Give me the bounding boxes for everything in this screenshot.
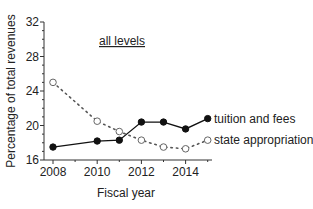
x-ticks: 2008201020122014 <box>40 160 208 179</box>
data-point <box>50 79 57 86</box>
x-tick-label: 2010 <box>84 165 111 179</box>
data-point <box>94 138 100 144</box>
data-point <box>116 128 123 135</box>
series-label-tuition: tuition and fees <box>214 112 295 126</box>
x-tick-label: 2008 <box>40 165 67 179</box>
x-tick-label: 2012 <box>128 165 155 179</box>
data-point <box>116 137 122 143</box>
series-layer <box>50 79 211 152</box>
data-point <box>50 144 56 150</box>
y-ticks: 1620242832 <box>26 15 44 167</box>
line-chart: 1620242832 2008201020122014 Percentage o… <box>0 0 313 209</box>
series-line-0 <box>53 119 208 147</box>
data-point <box>138 119 144 125</box>
data-point <box>182 145 189 152</box>
data-point <box>94 118 101 125</box>
y-tick-label: 20 <box>26 119 40 133</box>
data-point <box>204 137 211 144</box>
series-line-1 <box>53 82 208 148</box>
data-point <box>160 119 166 125</box>
y-tick-label: 32 <box>26 15 40 29</box>
series-label-state: state appropriations <box>214 133 313 147</box>
data-point <box>160 144 167 151</box>
data-point <box>182 126 188 132</box>
chart-annotation: all levels <box>99 34 145 48</box>
data-point <box>205 115 211 121</box>
y-axis-label: Percentage of total revenues <box>4 14 18 167</box>
y-tick-label: 16 <box>26 153 40 167</box>
x-tick-label: 2014 <box>172 165 199 179</box>
y-tick-label: 28 <box>26 50 40 64</box>
data-point <box>138 137 145 144</box>
x-axis-label: Fiscal year <box>97 186 155 200</box>
y-tick-label: 24 <box>26 84 40 98</box>
